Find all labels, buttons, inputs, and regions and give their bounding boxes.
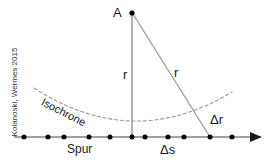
wire-dot bbox=[166, 135, 171, 140]
wire-dot bbox=[208, 135, 213, 140]
delta-s-label: Δs bbox=[160, 143, 175, 156]
credit-label: Kolanoski, Wermes 2015 bbox=[11, 44, 19, 140]
axis-arrowhead-icon bbox=[250, 132, 262, 142]
wire-dot bbox=[143, 135, 148, 140]
isochrone-diagram: A r r Δr Δs Spur Isochrone Kolanoski, We… bbox=[0, 0, 267, 161]
wire-dot bbox=[62, 135, 67, 140]
wire-dot bbox=[46, 135, 51, 140]
wire-dot bbox=[130, 135, 135, 140]
delta-r-label: Δr bbox=[210, 113, 223, 126]
wire-dot bbox=[87, 135, 92, 140]
apex-label: A bbox=[113, 6, 122, 19]
wire-dot bbox=[108, 135, 113, 140]
wire-dot bbox=[182, 135, 187, 140]
wire-dot bbox=[22, 135, 27, 140]
track-label: Spur bbox=[67, 143, 92, 155]
diagram-canvas bbox=[0, 0, 267, 161]
radius-slanted-label: r bbox=[174, 66, 178, 79]
radius-vertical-label: r bbox=[123, 68, 127, 81]
radius-slanted-line bbox=[133, 14, 210, 137]
apex-point-dot bbox=[129, 10, 134, 15]
wire-dot bbox=[230, 135, 235, 140]
